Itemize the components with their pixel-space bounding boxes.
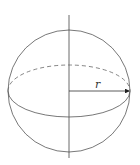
sphere-diagram: r: [0, 0, 140, 165]
radius-label: r: [95, 78, 101, 91]
